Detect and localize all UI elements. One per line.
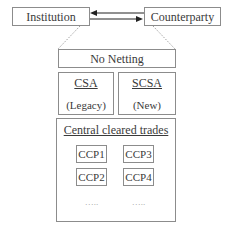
institution-label: Institution	[13, 10, 89, 24]
counterparty-label: Counterparty	[145, 10, 220, 24]
dotted-line-left	[58, 26, 80, 49]
ccp4-box: CCP4	[123, 168, 154, 186]
csa-subtitle: (Legacy)	[59, 98, 113, 112]
ellipsis-right: …..	[123, 195, 154, 209]
arrow-right-icon	[136, 16, 143, 22]
scsa-subtitle: (New)	[119, 98, 175, 112]
counterparty-box: Counterparty	[144, 7, 221, 26]
ellipsis-left: …..	[76, 195, 107, 209]
scsa-box: SCSA (New)	[118, 72, 176, 115]
ccp3-box: CCP3	[123, 145, 154, 163]
dotted-line-right	[153, 26, 175, 49]
ccp4-label: CCP4	[124, 170, 153, 184]
no-netting-label: No Netting	[59, 52, 175, 66]
central-cleared-title: Central cleared trades	[57, 123, 175, 137]
ccp2-box: CCP2	[76, 168, 107, 186]
scsa-title: SCSA	[119, 76, 175, 90]
ccp1-box: CCP1	[76, 145, 107, 163]
central-cleared-box: Central cleared trades CCP1 CCP2 CCP3 CC…	[56, 118, 176, 222]
csa-box: CSA (Legacy)	[58, 72, 114, 115]
ccp1-label: CCP1	[77, 147, 106, 161]
arrow-left-icon	[90, 10, 97, 16]
bidirectional-arrows	[89, 10, 144, 22]
institution-box: Institution	[12, 7, 90, 26]
ccp2-label: CCP2	[77, 170, 106, 184]
no-netting-box: No Netting	[58, 49, 176, 68]
ccp3-label: CCP3	[124, 147, 153, 161]
csa-title: CSA	[59, 76, 113, 90]
